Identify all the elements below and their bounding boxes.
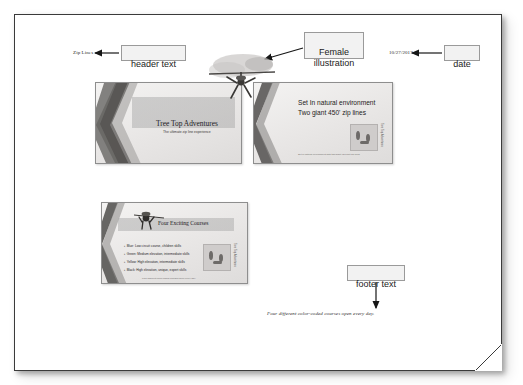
callout-date[interactable]: date — [444, 45, 480, 61]
callout-female-illustration[interactable]: Female illustration — [304, 32, 364, 59]
slide-side-caption: Tree Top Adventures — [233, 243, 236, 267]
slide-line-2: Two giant 450' zip lines — [298, 109, 366, 116]
callout-label: date — [453, 59, 471, 69]
course-bullet: Yellow: High elevation, intermediate ski… — [124, 261, 185, 264]
screenshot-canvas: Tree Top Adventures The ultimate zip lin… — [0, 0, 523, 385]
tree-trunk-graphic — [253, 82, 286, 164]
slide-thumbnail-environment[interactable]: Set In natural environment Two giant 450… — [253, 82, 393, 164]
slide-title-text: Tree Top Adventures — [156, 119, 218, 128]
arrow-female-illustration — [265, 48, 303, 59]
slide-side-caption: Tree Top Adventures — [380, 123, 383, 147]
slide-fineprint: Set in natural environment with two gian… — [298, 153, 360, 156]
document-page[interactable]: Tree Top Adventures The ultimate zip lin… — [14, 14, 502, 371]
callout-label: Female illustration — [314, 47, 355, 68]
slide-subtitle-text: The ultimate zip line experience — [163, 130, 211, 134]
slide-photo-thumbnail — [203, 244, 231, 271]
slide-fineprint: Four different color-coded courses open … — [142, 277, 196, 280]
document-header-text: Zip Lines — [73, 50, 93, 55]
course-bullet: Black: High elevation, unique, expert sk… — [124, 269, 186, 272]
page-corner-fold — [475, 344, 502, 371]
course-bullet: Green: Medium elevation, intermediate sk… — [124, 253, 189, 256]
callout-label: header text — [131, 59, 176, 69]
callout-label: footer text — [356, 279, 396, 289]
callout-header-text[interactable]: header text — [121, 45, 186, 61]
slide-line-1: Set In natural environment — [298, 99, 375, 106]
slide-thumbnail-title[interactable]: Tree Top Adventures The ultimate zip lin… — [95, 82, 242, 164]
callout-footer-text[interactable]: footer text — [347, 265, 405, 281]
document-footer-text: Four different color-coded courses open … — [267, 311, 374, 316]
course-bullet: Blue: Low circuit course, children skill… — [124, 245, 181, 248]
annotation-arrows — [15, 15, 503, 372]
slide-photo-thumbnail — [350, 124, 378, 151]
slide-title-text: Four Exciting Courses — [158, 220, 208, 226]
document-date-text: 10/27/2017 — [389, 50, 413, 55]
slide-thumbnail-courses[interactable]: Four Exciting Courses Blue: Low circuit … — [101, 202, 248, 284]
